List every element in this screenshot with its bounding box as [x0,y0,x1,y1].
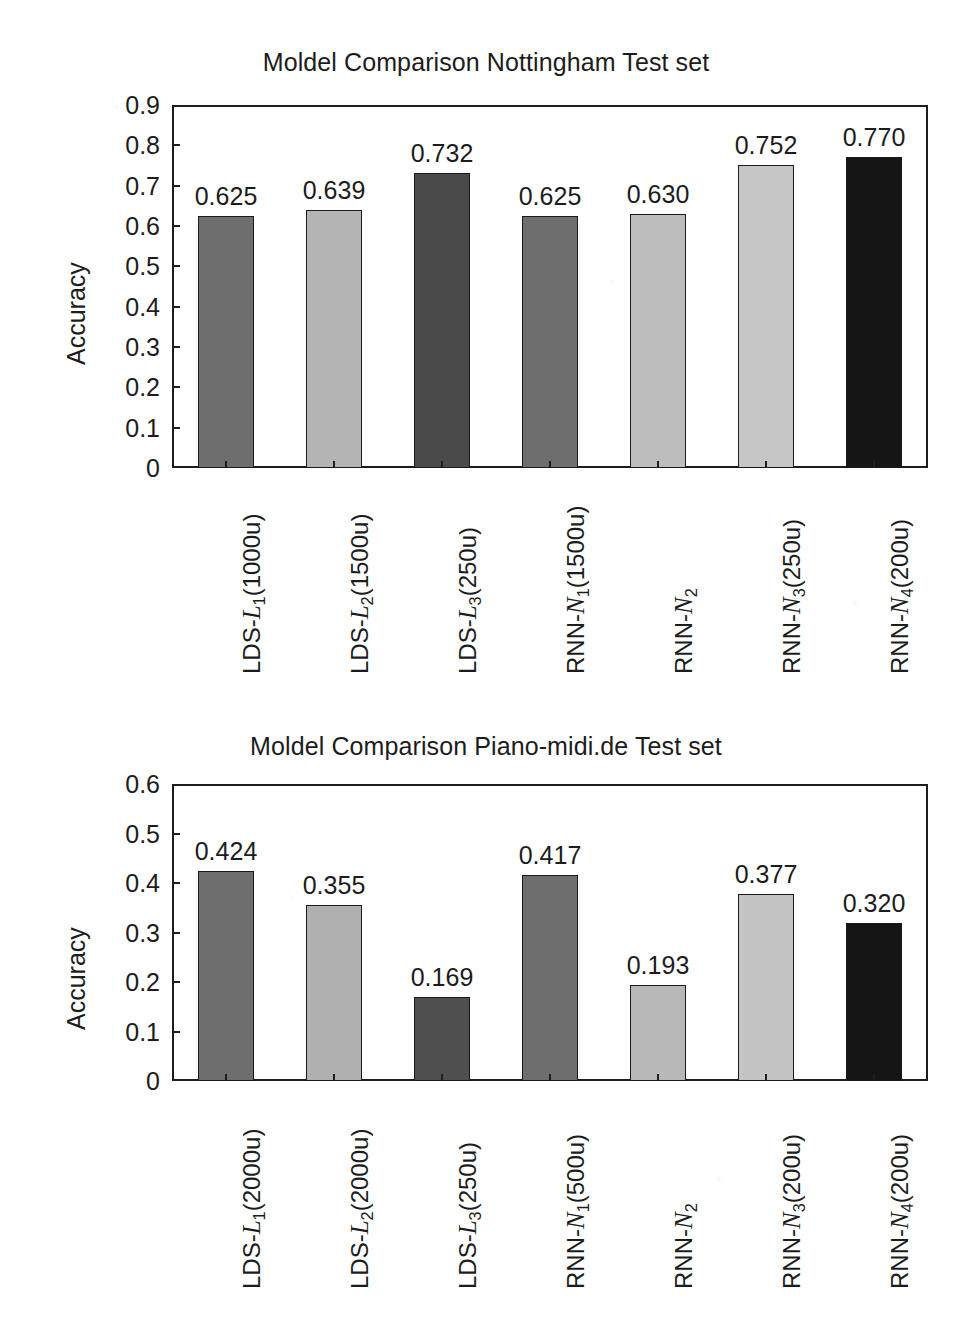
y-axis-tick-mark [172,981,180,983]
bar [522,875,578,1081]
y-axis-tick-label: 0.2 [125,373,160,402]
label-suffix: (500u) [562,1134,589,1203]
y-axis-tick-mark [172,833,180,835]
label-subscript: 3 [790,588,808,597]
label-prefix: RNN- [670,1229,697,1289]
label-suffix: (1500u) [346,514,373,597]
x-axis-tick-mark [873,1074,875,1081]
bar [306,905,362,1081]
label-prefix: LDS- [238,1234,265,1289]
label-symbol: N [562,597,589,614]
y-axis-tick-label: 0.6 [125,770,160,799]
bar [630,985,686,1081]
label-suffix: (250u) [778,519,805,588]
bar-value-label: 0.377 [735,860,798,889]
bar [630,214,686,468]
label-subscript: 1 [250,1211,268,1220]
x-axis-tick-label: RNN-N4(200u) [886,519,914,674]
bar [846,923,902,1081]
y-axis-tick-mark [172,306,180,308]
bar [198,871,254,1081]
y-axis-tick-label: 0.7 [125,171,160,200]
x-axis-tick-label: LDS-L2(1500u) [346,514,374,674]
label-prefix: RNN- [670,614,697,674]
bar-value-label: 0.639 [303,176,366,205]
y-axis-tick-label: 0.5 [125,819,160,848]
label-symbol: N [886,1212,913,1229]
x-axis-tick-label: RNN-N2 [670,1203,698,1289]
label-subscript: 2 [682,1203,700,1212]
label-prefix: LDS- [454,1234,481,1289]
x-axis-tick-mark [873,461,875,468]
label-subscript: 4 [898,1203,916,1212]
y-axis-tick-label: 0 [146,454,160,483]
label-subscript: 1 [574,588,592,597]
y-axis-tick-mark [172,265,180,267]
x-axis-tick-mark [441,461,443,468]
y-axis-tick-label: 0.4 [125,292,160,321]
bar [414,173,470,468]
x-axis-tick-label: LDS-L1(2000u) [238,1129,266,1289]
bar [414,997,470,1081]
label-symbol: N [778,597,805,614]
x-axis-tick-mark [333,1074,335,1081]
bar-value-label: 0.169 [411,963,474,992]
label-prefix: RNN- [886,1229,913,1289]
y-axis-tick-label: 0.6 [125,212,160,241]
y-axis-tick-mark [172,346,180,348]
bar-value-label: 0.193 [627,951,690,980]
label-suffix: (200u) [886,1134,913,1203]
label-subscript: 4 [898,588,916,597]
x-axis-tick-label: RNN-N1(500u) [562,1134,590,1289]
bar [522,216,578,468]
bar-value-label: 0.732 [411,139,474,168]
label-symbol: N [670,1212,697,1229]
label-subscript: 2 [358,596,376,605]
y-axis-tick-label: 0.5 [125,252,160,281]
label-subscript: 2 [682,588,700,597]
x-axis-tick-label: LDS-L1(1000u) [238,514,266,674]
label-symbol: N [778,1212,805,1229]
chart-title: Moldel Comparison Nottingham Test set [0,48,972,77]
label-prefix: RNN- [562,1229,589,1289]
bar [738,894,794,1081]
y-axis-tick-label: 0.3 [125,333,160,362]
label-subscript: 3 [466,596,484,605]
label-subscript: 3 [790,1203,808,1212]
label-subscript: 3 [466,1211,484,1220]
label-prefix: RNN- [778,614,805,674]
x-axis-tick-label: RNN-N3(250u) [778,519,806,674]
bar-value-label: 0.752 [735,131,798,160]
label-prefix: RNN- [562,614,589,674]
bar-value-label: 0.625 [519,182,582,211]
y-axis-tick-mark [172,386,180,388]
chart-title: Moldel Comparison Piano-midi.de Test set [0,732,972,761]
x-axis-tick-mark [225,1074,227,1081]
label-subscript: 1 [574,1203,592,1212]
chart-nottingham-test-set: Moldel Comparison Nottingham Test set Ac… [0,0,972,700]
bar [306,210,362,468]
y-axis-tick-label: 0.2 [125,968,160,997]
label-symbol: L [454,1220,481,1234]
label-suffix: (1000u) [238,514,265,597]
bar-value-label: 0.770 [843,123,906,152]
bar-value-label: 0.417 [519,841,582,870]
label-symbol: L [454,605,481,619]
label-symbol: N [886,597,913,614]
label-prefix: RNN- [778,1229,805,1289]
y-axis-tick-label: 0.8 [125,131,160,160]
label-symbol: L [346,1220,373,1234]
y-axis-tick-label: 0 [146,1067,160,1096]
bar-value-label: 0.355 [303,871,366,900]
chart-piano-midi-test-set: Moldel Comparison Piano-midi.de Test set… [0,700,972,1340]
label-symbol: L [238,605,265,619]
label-suffix: (200u) [778,1134,805,1203]
label-prefix: LDS- [454,619,481,674]
label-prefix: RNN- [886,614,913,674]
label-suffix: (1500u) [562,506,589,589]
label-symbol: N [562,1212,589,1229]
y-axis-tick-mark [172,1031,180,1033]
bar-value-label: 0.424 [195,837,258,866]
x-axis-tick-mark [657,461,659,468]
label-subscript: 2 [358,1211,376,1220]
